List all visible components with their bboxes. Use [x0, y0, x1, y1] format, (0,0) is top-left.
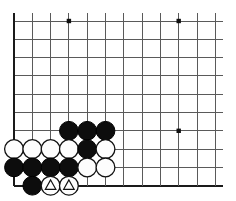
stone-white-w3[interactable]: [41, 140, 60, 159]
star-point-upper-right: [177, 19, 181, 23]
black-stone[interactable]: [78, 121, 97, 140]
star-point-lower-right: [177, 129, 181, 133]
stone-white-w8[interactable]: [41, 176, 60, 195]
stone-black-b3[interactable]: [96, 121, 115, 140]
stone-white-w1[interactable]: [5, 140, 24, 159]
go-board-diagram: [0, 0, 236, 201]
stone-white-w4[interactable]: [60, 140, 79, 159]
stone-black-b9[interactable]: [23, 176, 42, 195]
black-stone[interactable]: [41, 158, 60, 177]
stone-black-b8[interactable]: [60, 158, 79, 177]
black-stone[interactable]: [23, 158, 42, 177]
stone-black-b1[interactable]: [60, 121, 79, 140]
black-stone[interactable]: [23, 176, 42, 195]
stone-black-b5[interactable]: [5, 158, 24, 177]
stone-white-w2[interactable]: [23, 140, 42, 159]
stone-black-b4[interactable]: [78, 140, 97, 159]
stone-white-w7[interactable]: [96, 158, 115, 177]
black-stone[interactable]: [78, 140, 97, 159]
stone-black-b7[interactable]: [41, 158, 60, 177]
black-stone[interactable]: [60, 121, 79, 140]
stone-black-b6[interactable]: [23, 158, 42, 177]
stone-white-w5[interactable]: [96, 140, 115, 159]
black-stone[interactable]: [5, 158, 24, 177]
black-stone[interactable]: [96, 121, 115, 140]
stone-black-b2[interactable]: [78, 121, 97, 140]
go-board-canvas[interactable]: [0, 0, 236, 201]
white-stone[interactable]: [5, 140, 24, 159]
stone-white-w9[interactable]: [60, 176, 79, 195]
white-stone[interactable]: [23, 140, 42, 159]
white-stone[interactable]: [96, 140, 115, 159]
white-stone[interactable]: [41, 140, 60, 159]
star-point-upper-left: [67, 19, 71, 23]
white-stone[interactable]: [60, 140, 79, 159]
stone-white-w6[interactable]: [78, 158, 97, 177]
black-stone[interactable]: [60, 158, 79, 177]
white-stone[interactable]: [96, 158, 115, 177]
white-stone[interactable]: [78, 158, 97, 177]
